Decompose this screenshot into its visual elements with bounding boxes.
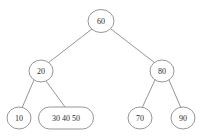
node-80-label: 80	[158, 67, 166, 76]
edge-20-to-10	[22, 80, 34, 108]
node-20-label: 20	[37, 67, 45, 76]
node-20[interactable]: 20	[29, 60, 53, 82]
node-30-40-50[interactable]: 30 40 50	[39, 107, 94, 129]
node-root-60[interactable]: 60	[88, 10, 114, 33]
node-10[interactable]: 10	[7, 107, 31, 129]
tree-diagram: 60 20 80 10 30 40 50 70	[0, 0, 205, 137]
node-70[interactable]: 70	[128, 107, 152, 129]
node-10-label: 10	[15, 114, 23, 123]
node-80[interactable]: 80	[150, 60, 174, 82]
edge-80-to-70	[142, 80, 155, 108]
node-70-label: 70	[136, 114, 144, 123]
node-90-label: 90	[179, 114, 187, 123]
edge-root-to-20	[48, 29, 92, 63]
edge-80-to-90	[169, 80, 181, 108]
tree-diagram-canvas: 60 20 80 10 30 40 50 70	[0, 0, 205, 137]
edge-root-to-80	[111, 29, 155, 63]
edge-20-to-30-40-50	[46, 81, 65, 107]
node-90[interactable]: 90	[171, 107, 195, 129]
node-30-40-50-label: 30 40 50	[52, 114, 80, 123]
node-group: 60 20 80 10 30 40 50 70	[7, 10, 195, 130]
node-root-60-label: 60	[97, 17, 105, 26]
